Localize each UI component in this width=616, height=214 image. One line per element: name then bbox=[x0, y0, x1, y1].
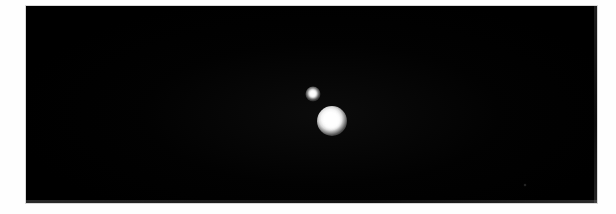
sky-frame bbox=[26, 6, 597, 203]
bright-object-secondary-core bbox=[310, 91, 317, 98]
bright-object-secondary bbox=[306, 87, 321, 102]
faint-background-speck bbox=[524, 184, 527, 187]
sky-background-noise bbox=[26, 6, 597, 203]
bright-object-primary bbox=[317, 106, 347, 136]
bright-object-primary-core bbox=[324, 113, 341, 129]
image-canvas bbox=[0, 0, 616, 214]
